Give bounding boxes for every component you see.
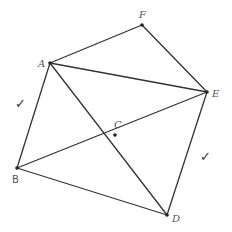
diagram-canvas: A F E B C D ✓ ✓ [0, 0, 232, 232]
label-F: F [138, 9, 147, 20]
check-mark-icon: ✓ [200, 149, 211, 164]
label-A: A [37, 58, 45, 69]
segment-BD [17, 168, 167, 215]
point-E [205, 90, 209, 94]
point-A [48, 61, 52, 65]
label-E: E [211, 88, 220, 99]
label-B: B [12, 174, 19, 185]
point-B [15, 166, 19, 170]
point-D [165, 213, 169, 217]
point-F [140, 23, 144, 27]
segment-AD [50, 63, 167, 215]
segment-BE [17, 92, 207, 168]
segment-AB [17, 63, 50, 168]
segment-AF [50, 25, 142, 63]
label-C: C [114, 119, 122, 130]
geometry-diagram: A F E B C D ✓ ✓ [0, 0, 232, 232]
point-C [113, 133, 117, 137]
check-mark-icon: ✓ [15, 96, 26, 111]
label-D: D [171, 213, 180, 224]
